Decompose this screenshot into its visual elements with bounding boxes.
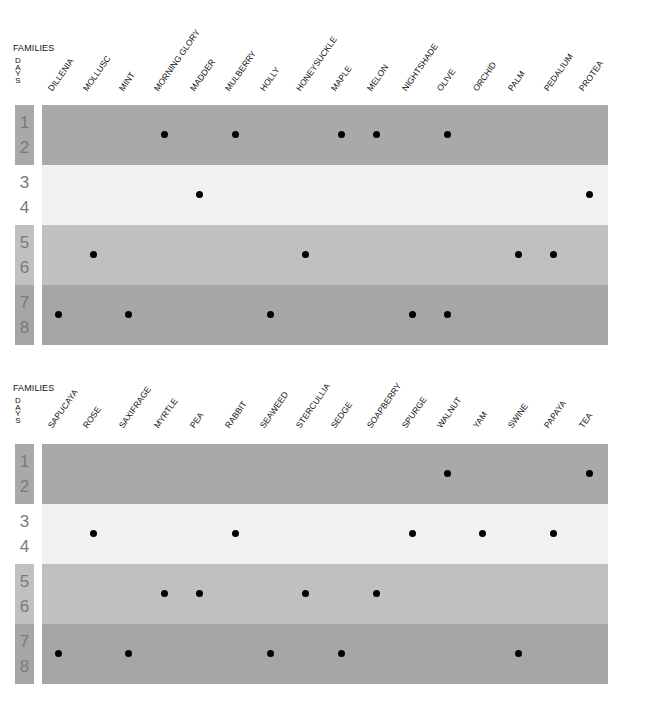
day-number: 6 xyxy=(15,594,34,619)
column-header: TEA xyxy=(577,411,595,430)
day-number: 1 xyxy=(15,449,34,474)
column-header: YAM xyxy=(471,410,489,430)
data-point-dot xyxy=(196,590,203,597)
data-point-dot xyxy=(232,530,239,537)
data-point-dot xyxy=(515,650,522,657)
data-point-dot xyxy=(373,590,380,597)
data-point-dot xyxy=(409,530,416,537)
column-header: SEDGE xyxy=(329,400,354,430)
day-number: 7 xyxy=(15,629,34,654)
data-point-dot xyxy=(267,650,274,657)
row-days-label: 78 xyxy=(15,624,34,684)
day-number: 8 xyxy=(15,654,34,679)
row-band xyxy=(42,564,608,624)
column-header: ROSE xyxy=(81,405,103,430)
families-label: FAMILIES xyxy=(13,383,54,393)
data-point-dot xyxy=(161,590,168,597)
day-number: 2 xyxy=(15,474,34,499)
column-header: SAXIFRAGE xyxy=(117,384,153,430)
day-number: 5 xyxy=(15,569,34,594)
chart-families-b: FAMILIESDAYSSAPUCAYAROSESAXIFRAGEMYRTLEP… xyxy=(0,0,655,712)
column-header: PEA xyxy=(187,410,205,430)
data-point-dot xyxy=(444,470,451,477)
column-header: RABBIT xyxy=(223,399,249,430)
day-number: 4 xyxy=(15,534,34,559)
row-band xyxy=(42,504,608,564)
data-point-dot xyxy=(302,590,309,597)
column-header: SPURGE xyxy=(400,395,429,430)
row-band xyxy=(42,444,608,504)
column-header: SOAPBERRY xyxy=(364,381,402,430)
data-point-dot xyxy=(338,650,345,657)
data-point-dot xyxy=(550,530,557,537)
day-number: 3 xyxy=(15,509,34,534)
column-header: SAPUCAYA xyxy=(46,387,80,430)
column-header: PAPAYA xyxy=(541,398,567,430)
row-days-label: 12 xyxy=(15,444,34,504)
row-days-label: 34 xyxy=(15,504,34,564)
days-axis-label: DAYS xyxy=(14,398,22,424)
data-point-dot xyxy=(90,530,97,537)
column-header: STERCULLIA xyxy=(294,381,332,430)
column-header: WALNUT xyxy=(435,395,464,430)
column-header: SWINE xyxy=(506,401,530,430)
days-letter: S xyxy=(14,418,22,425)
data-point-dot xyxy=(125,650,132,657)
row-days-label: 56 xyxy=(15,564,34,624)
column-header: SEAWEED xyxy=(258,390,290,430)
data-point-dot xyxy=(55,650,62,657)
data-point-dot xyxy=(586,470,593,477)
column-header: MYRTLE xyxy=(152,396,180,430)
data-point-dot xyxy=(479,530,486,537)
